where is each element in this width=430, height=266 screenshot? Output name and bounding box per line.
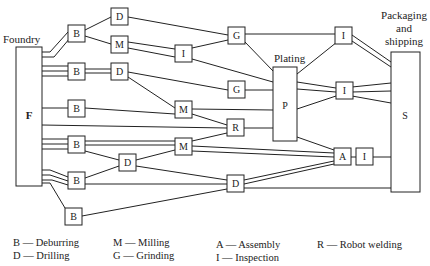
node-b5: B bbox=[68, 172, 85, 189]
node-g2: G bbox=[228, 81, 245, 98]
node-i3: I bbox=[335, 27, 352, 44]
svg-text:M: M bbox=[179, 141, 188, 152]
node-label-s: S bbox=[402, 110, 408, 121]
svg-text:I: I bbox=[343, 85, 346, 96]
station-foundry: F bbox=[16, 47, 42, 186]
legend-column-2: M — Milling G — Grinding bbox=[113, 236, 174, 262]
node-i4: I bbox=[356, 148, 373, 165]
node-m2: M bbox=[175, 101, 192, 118]
svg-text:M: M bbox=[115, 39, 124, 50]
packaging-label-line1: Packaging bbox=[381, 9, 427, 21]
node-b1: B bbox=[68, 25, 85, 42]
node-m1: M bbox=[111, 36, 128, 53]
legend-item-drilling: D — Drilling bbox=[13, 249, 79, 262]
foundry-label: Foundry bbox=[3, 33, 41, 45]
svg-text:M: M bbox=[179, 104, 188, 115]
svg-text:B: B bbox=[73, 28, 80, 39]
legend-item-robot-welding: R — Robot welding bbox=[317, 238, 402, 251]
node-m3: M bbox=[175, 138, 192, 155]
node-d4: D bbox=[227, 175, 244, 192]
node-r: R bbox=[227, 119, 244, 136]
legend-item-assembly: A — Assembly bbox=[216, 238, 280, 251]
legend-column-1: B — Deburring D — Drilling bbox=[13, 236, 79, 262]
packaging-label-line3: shipping bbox=[385, 35, 423, 47]
legend-item-milling: M — Milling bbox=[113, 236, 174, 249]
svg-text:B: B bbox=[70, 211, 77, 222]
svg-text:B: B bbox=[73, 66, 80, 77]
svg-text:I: I bbox=[363, 151, 366, 162]
node-i2: I bbox=[336, 82, 353, 99]
plating-label: Plating bbox=[274, 52, 306, 64]
node-a: A bbox=[334, 148, 351, 165]
legend-item-grinding: G — Grinding bbox=[113, 249, 174, 262]
legend-item-deburring: B — Deburring bbox=[13, 236, 79, 249]
node-i1: I bbox=[175, 45, 192, 62]
svg-text:B: B bbox=[73, 139, 80, 150]
svg-text:D: D bbox=[232, 178, 239, 189]
process-flow-diagram: F P S B D M I G I B D G I B M R B M D A … bbox=[0, 0, 430, 266]
svg-text:R: R bbox=[232, 122, 239, 133]
legend-item-inspection: I — Inspection bbox=[216, 251, 280, 264]
svg-text:D: D bbox=[116, 66, 123, 77]
station-packaging-shipping: S bbox=[391, 52, 420, 192]
svg-text:G: G bbox=[233, 84, 240, 95]
node-label-p: P bbox=[282, 100, 288, 111]
legend-column-4: R — Robot welding bbox=[317, 238, 402, 251]
node-d1: D bbox=[111, 8, 128, 25]
node-label-f: F bbox=[26, 109, 33, 121]
svg-text:A: A bbox=[339, 151, 347, 162]
packaging-label-line2: and bbox=[396, 22, 412, 34]
legend-column-3: A — Assembly I — Inspection bbox=[216, 238, 280, 264]
svg-text:B: B bbox=[73, 103, 80, 114]
svg-text:G: G bbox=[233, 30, 240, 41]
node-d2: D bbox=[111, 63, 128, 80]
svg-text:I: I bbox=[342, 30, 345, 41]
svg-text:I: I bbox=[182, 48, 185, 59]
node-g1: G bbox=[228, 27, 245, 44]
edges bbox=[42, 17, 391, 216]
svg-text:D: D bbox=[116, 11, 123, 22]
node-b2: B bbox=[68, 63, 85, 80]
node-b6: B bbox=[65, 208, 82, 225]
node-b3: B bbox=[68, 100, 85, 117]
svg-text:B: B bbox=[73, 175, 80, 186]
station-plating: P bbox=[273, 67, 297, 141]
node-b4: B bbox=[68, 136, 85, 153]
node-d3: D bbox=[119, 154, 136, 171]
svg-text:D: D bbox=[124, 157, 131, 168]
